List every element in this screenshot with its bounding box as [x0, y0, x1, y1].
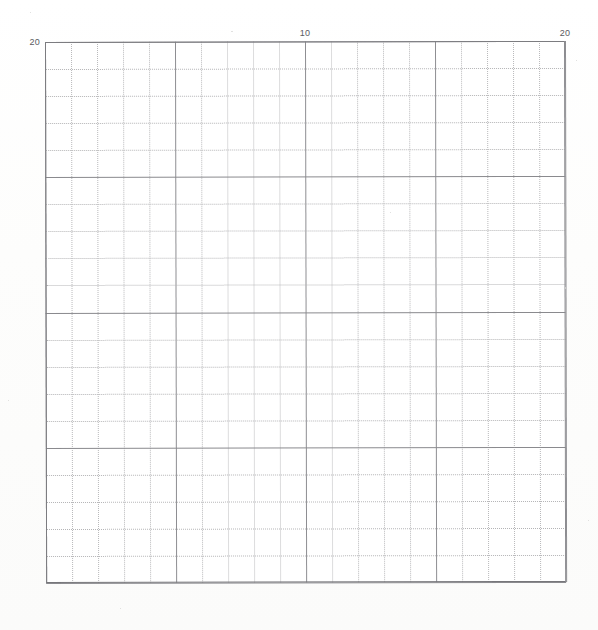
scan-speck [120, 608, 121, 609]
scan-speck [576, 60, 577, 61]
grid-surface [45, 41, 566, 583]
y-axis-tick-labels: 5101520 [18, 42, 40, 583]
y-tick-label-20: 20 [30, 37, 40, 47]
x-axis-tick-labels: 1020 [45, 24, 565, 38]
graph-paper-page: 1020 5101520 [0, 0, 598, 630]
scan-speck [588, 520, 589, 521]
x-tick-label-10: 10 [300, 28, 310, 38]
plot-area[interactable] [45, 41, 566, 583]
scan-speck [30, 12, 31, 13]
x-tick-label-20: 20 [560, 28, 570, 38]
scan-speck [8, 400, 9, 401]
